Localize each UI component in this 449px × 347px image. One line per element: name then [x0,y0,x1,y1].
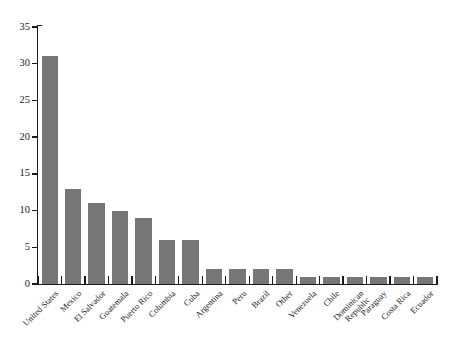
bar [417,277,433,284]
y-axis-tick [32,26,38,27]
bar [300,277,316,284]
y-axis-tick-label: 30 [0,58,30,69]
bar [159,240,175,284]
bar [88,203,104,284]
bar [323,277,339,284]
y-axis-tick [32,63,38,64]
bar [206,269,222,284]
bar [394,277,410,284]
x-axis-tick-label: Ecuador [409,289,436,316]
bar [182,240,198,284]
bar [229,269,245,284]
bar [135,218,151,284]
x-axis-tick-label: Peru [230,289,248,307]
y-axis-tick-label: 25 [0,95,30,106]
y-axis-tick-label: 0 [0,279,30,290]
x-axis-tick-label: Brazil [250,289,271,310]
bar [276,269,292,284]
x-axis-tick-label: United States [21,289,60,328]
y-axis-tick [32,100,38,101]
y-axis-tick-label: 15 [0,168,30,179]
bar [347,277,363,284]
y-axis-tick-label: 5 [0,242,30,253]
y-axis-tick [32,136,38,137]
bar [253,269,269,284]
y-axis-tick-label: 20 [0,132,30,143]
y-axis-tick-label: 35 [0,22,30,33]
y-axis-tick [32,247,38,248]
y-axis-tick [32,173,38,174]
bar [42,56,58,284]
bar [65,189,81,284]
bar [112,211,128,284]
bar [370,277,386,284]
plot-area [38,27,437,284]
bar-chart: 05101520253035 United StatesMexicoEl Sal… [0,0,449,347]
y-axis-tick [32,210,38,211]
y-axis-tick-label: 10 [0,205,30,216]
